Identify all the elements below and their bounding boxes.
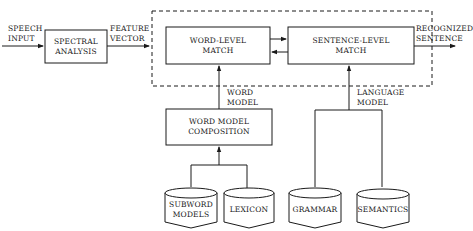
word-model-composition-text: WORD MODELCOMPOSITION: [166, 109, 272, 145]
grammar-text: GRAMMAR: [289, 199, 341, 221]
speech-input-label: SPEECH INPUT: [8, 24, 43, 44]
word-model-label: WORD MODEL: [227, 88, 258, 108]
feature-vector-label: FEATURE VECTOR: [110, 24, 150, 44]
recognized-sentence-label: RECOGNIZED SENTENCE: [416, 24, 473, 44]
subword-models-text: SUBWORDMODELS: [165, 199, 217, 221]
spectral-analysis-text: SPECTRALANALYSIS: [45, 30, 107, 63]
word-level-match-text: WORD-LEVELMATCH: [166, 27, 270, 64]
language-model-label: LANGUAGE MODEL: [357, 88, 405, 108]
semantics-text: SEMANTICS: [357, 199, 409, 221]
lexicon-text: LEXICON: [224, 199, 274, 221]
sentence-level-match-text: SENTENCE-LEVELMATCH: [288, 27, 414, 64]
